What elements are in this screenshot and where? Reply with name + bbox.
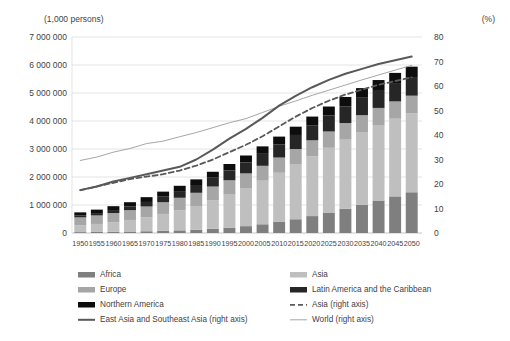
x-axis-tick: 1970 [139,239,155,248]
bar-segment [306,140,318,156]
right-axis-tick: 50 [434,106,444,116]
bar-segment [74,232,86,233]
left-axis-tick: 5 000 000 [29,88,67,98]
left-axis-tick: 4 000 000 [29,116,67,126]
bar-segment [124,220,136,232]
x-axis-tick: 2020 [304,239,320,248]
bar-segment [406,67,418,77]
bar-segment [190,185,202,193]
legend-item: Asia (right axis) [290,300,369,309]
legend-item: Africa [78,270,121,279]
bar-segment [174,210,186,230]
population-stacked-bar-chart: (1,000 persons)(%)01 000 0002 000 0003 0… [0,0,510,341]
bar-segment [290,135,302,149]
bar-segment [74,212,86,215]
bar-segment [223,180,235,194]
bar-segment [406,96,418,113]
bar-segment [356,132,368,205]
bar-segment [190,179,202,185]
bar-segment [257,224,269,233]
bar-segment [157,192,169,197]
bar-segment [373,90,385,108]
bar-segment [207,187,219,201]
left-axis-tick: 1 000 000 [29,200,67,210]
bar-segment [406,113,418,192]
bar-segment [273,158,285,173]
x-axis-tick: 2040 [371,239,387,248]
bar-segment [174,230,186,233]
bar-segment [240,188,252,226]
x-axis-tick: 1975 [155,239,171,248]
bar-segment [356,88,368,98]
bar-segment [107,206,119,210]
bar-segment [356,115,368,132]
right-axis-tick: 0 [434,228,439,238]
bar-segment [323,116,335,132]
left-axis-tick: 7 000 000 [29,32,67,42]
bar-segment [74,215,86,217]
bar-segment [323,213,335,233]
legend-label: Asia [312,270,328,279]
bar-segment [124,232,136,233]
bar-segment [207,172,219,178]
bar-segment [223,164,235,170]
bar-segment [174,198,186,211]
bar-segment [356,205,368,233]
legend-label: Northern America [100,300,164,309]
bar-segment [124,210,136,220]
legend-swatch [78,272,95,278]
bar-segment [290,127,302,135]
bar-segment [74,225,86,232]
bar-segment [207,229,219,233]
bar-segment [174,191,186,198]
bar-segment [207,178,219,187]
left-axis-tick: 3 000 000 [29,144,67,154]
bar-segment [389,101,401,118]
bar-segment [257,146,269,153]
bar-segment [141,206,153,217]
bar-segment [290,149,302,165]
bar-segment [273,173,285,222]
legend-swatch [78,302,95,308]
legend-swatch [290,272,307,278]
bar-segment [389,196,401,233]
bar-segment [107,222,119,232]
bar-segment [306,125,318,140]
x-axis-tick: 1960 [105,239,121,248]
legend-swatch [290,287,307,293]
x-axis-tick: 1955 [89,239,105,248]
bar-segment [356,98,368,115]
legend-label: World (right axis) [312,315,374,324]
left-axis-caption: (1,000 persons) [44,14,104,24]
legend-label: Asia (right axis) [312,300,369,309]
x-axis-tick: 1990 [205,239,221,248]
bar-segment [323,148,335,213]
bar-segment [339,209,351,233]
x-axis-tick: 2030 [337,239,353,248]
bar-segment [406,192,418,233]
x-axis-tick: 2015 [288,239,304,248]
bar-segment [174,186,186,191]
bar-segment [373,201,385,233]
bar-segment [190,206,202,230]
bar-segment [406,77,418,96]
right-axis-caption: (%) [482,14,495,24]
bar-segment [323,107,335,116]
left-axis-tick: 2 000 000 [29,172,67,182]
bar-segment [389,83,401,101]
bar-segment [141,202,153,207]
legend-item: World (right axis) [290,315,374,324]
bar-segment [91,210,103,213]
x-axis-tick: 2050 [404,239,420,248]
bar-segment [273,222,285,233]
left-axis-tick: 0 [62,228,67,238]
bar-segment [223,195,235,228]
bar-segment [91,215,103,224]
right-axis-tick: 20 [434,179,444,189]
bar-segment [107,213,119,222]
x-axis-tick: 2045 [387,239,403,248]
bar-segment [323,132,335,148]
bar-segment [141,217,153,231]
bar-segment [240,156,252,163]
bar-segment [257,181,269,225]
